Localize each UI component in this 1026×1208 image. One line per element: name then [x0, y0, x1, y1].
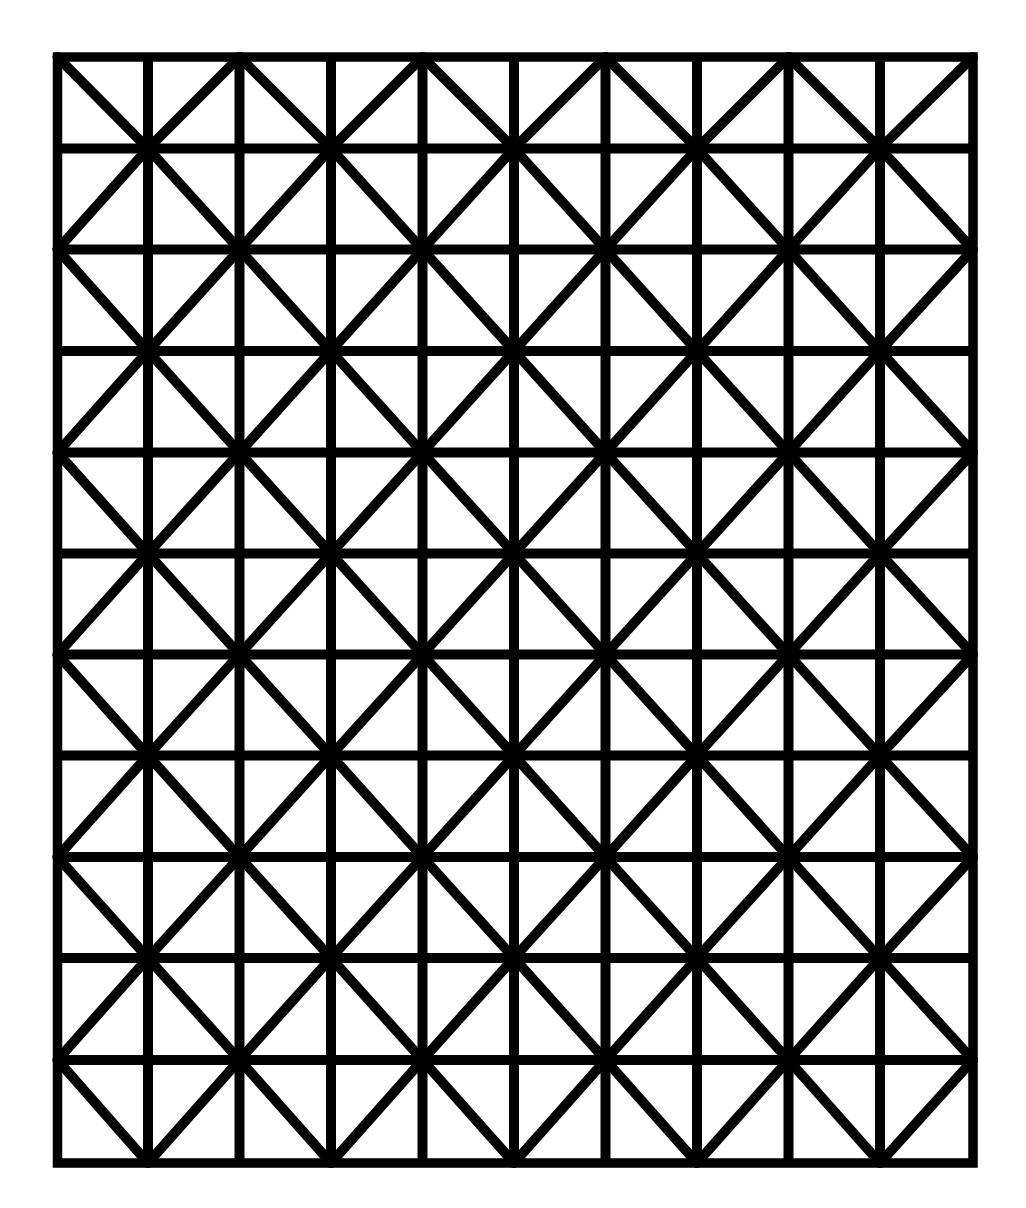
diagram-canvas	[0, 0, 1026, 1208]
diamond-lattice-grid	[0, 0, 1026, 1208]
